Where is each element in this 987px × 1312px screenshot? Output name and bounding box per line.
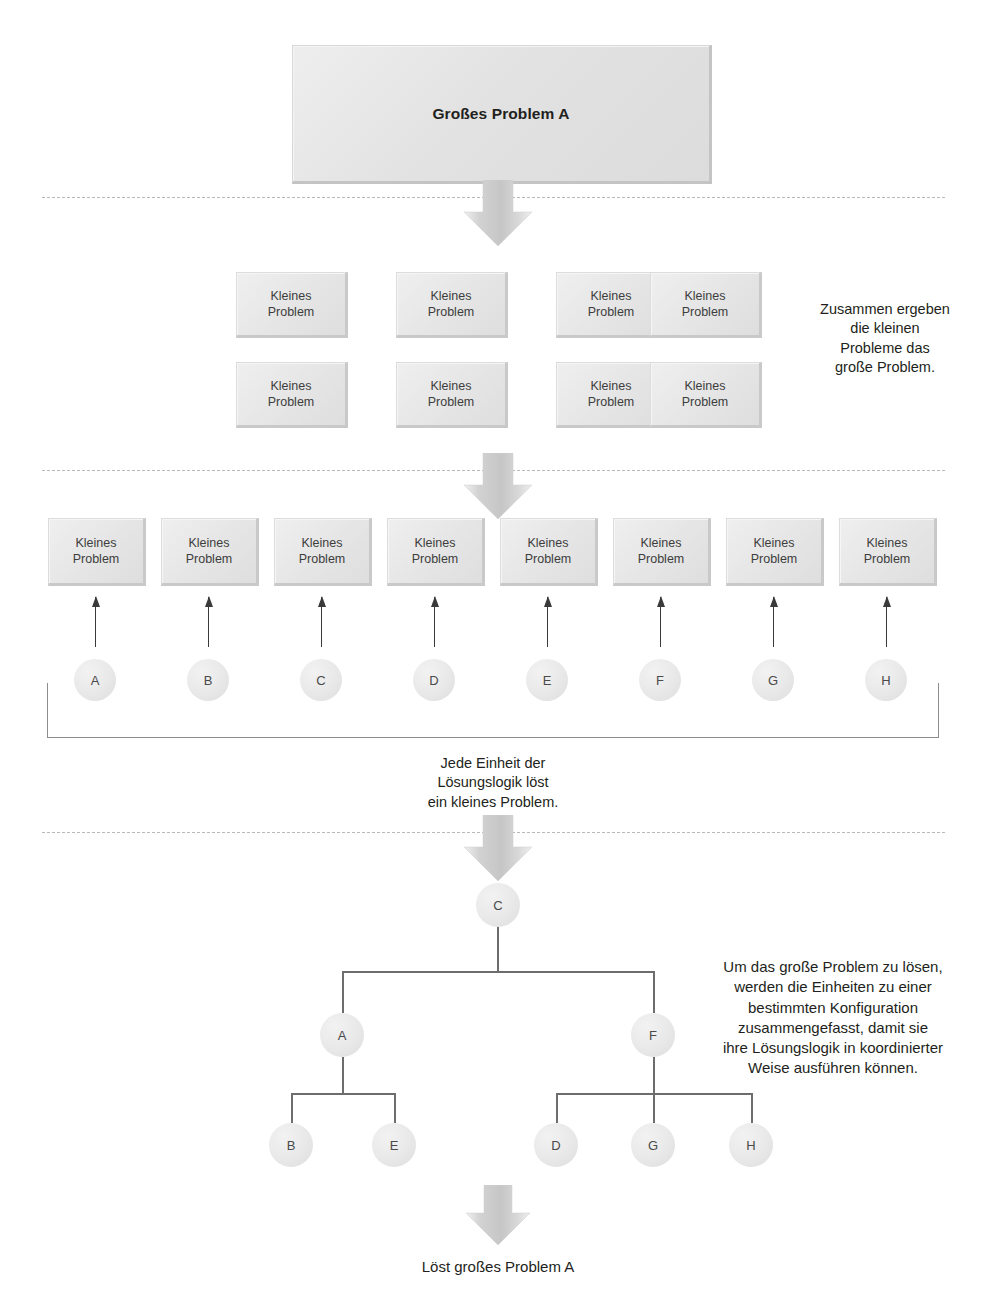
small-problem-line1: Kleines [302, 535, 343, 551]
small-problem-line1: Kleines [431, 288, 472, 304]
up-arrow-b [208, 597, 209, 647]
small-problem-line1: Kleines [271, 288, 312, 304]
tree-node-b[interactable]: B [269, 1123, 313, 1167]
tree-node-f[interactable]: F [631, 1013, 675, 1057]
tree-node-c[interactable]: C [476, 883, 520, 927]
down-block-arrow-1 [460, 180, 536, 248]
small-problem-box: Kleines Problem [48, 518, 146, 586]
small-problem-line1: Kleines [415, 535, 456, 551]
tree-line-to-f [653, 971, 655, 1013]
small-problem-box: Kleines Problem [274, 518, 372, 586]
tree-node-g[interactable]: G [631, 1123, 675, 1167]
up-arrow-g [773, 597, 774, 647]
small-problem-line1: Kleines [867, 535, 908, 551]
tree-line-to-b [291, 1093, 293, 1123]
small-problem-line1: Kleines [591, 378, 632, 394]
small-problem-line1: Kleines [271, 378, 312, 394]
small-problem-line2: Problem [428, 394, 475, 410]
small-problem-line2: Problem [864, 551, 911, 567]
small-problem-line1: Kleines [754, 535, 795, 551]
tree-node-label: H [746, 1138, 755, 1153]
caption-combined-problems: Zusammen ergeben die kleinen Probleme da… [790, 300, 980, 378]
tree-line-a-children-bar [291, 1093, 395, 1095]
small-problem-box: Kleines Problem [650, 272, 762, 338]
up-arrow-h [886, 597, 887, 647]
small-problem-line1: Kleines [431, 378, 472, 394]
up-arrow-e [547, 597, 548, 647]
small-problem-line2: Problem [638, 551, 685, 567]
small-problem-line1: Kleines [528, 535, 569, 551]
small-problem-line1: Kleines [76, 535, 117, 551]
tree-line-to-d [556, 1093, 558, 1123]
caption-unit-solves-problem: Jede Einheit der Lösungslogik löst ein k… [343, 754, 643, 812]
tree-node-d[interactable]: D [534, 1123, 578, 1167]
small-problem-box: Kleines Problem [613, 518, 711, 586]
tree-line-to-a [342, 971, 344, 1013]
small-problem-box: Kleines Problem [396, 362, 508, 428]
small-problem-box: Kleines Problem [396, 272, 508, 338]
small-problem-line1: Kleines [591, 288, 632, 304]
tree-node-label: D [551, 1138, 560, 1153]
tree-line-to-h [751, 1093, 753, 1123]
tree-node-h[interactable]: H [729, 1123, 773, 1167]
small-problem-line2: Problem [73, 551, 120, 567]
small-problem-box: Kleines Problem [650, 362, 762, 428]
small-problem-line2: Problem [428, 304, 475, 320]
small-problem-line2: Problem [412, 551, 459, 567]
small-problem-line1: Kleines [685, 288, 726, 304]
small-problem-box: Kleines Problem [500, 518, 598, 586]
units-bracket [47, 683, 939, 738]
small-problem-box: Kleines Problem [726, 518, 824, 586]
tree-node-label: E [390, 1138, 399, 1153]
small-problem-line1: Kleines [189, 535, 230, 551]
small-problem-box: Kleines Problem [839, 518, 937, 586]
small-problem-line2: Problem [751, 551, 798, 567]
tree-line-to-g [653, 1093, 655, 1123]
small-problem-line2: Problem [682, 304, 729, 320]
small-problem-line2: Problem [268, 304, 315, 320]
up-arrow-a [95, 597, 96, 647]
tree-line-a-down [342, 1057, 344, 1094]
caption-configuration: Um das große Problem zu lösen, werden di… [683, 957, 983, 1079]
small-problem-box: Kleines Problem [236, 272, 348, 338]
big-problem-label: Großes Problem A [432, 105, 569, 123]
up-arrow-f [660, 597, 661, 647]
up-arrow-c [321, 597, 322, 647]
down-block-arrow-2 [460, 453, 536, 521]
up-arrow-d [434, 597, 435, 647]
tree-node-label: B [287, 1138, 296, 1153]
big-problem-box: Großes Problem A [292, 45, 712, 184]
tree-line-level2-bar [342, 971, 654, 973]
small-problem-line2: Problem [268, 394, 315, 410]
small-problem-box: Kleines Problem [161, 518, 259, 586]
small-problem-line2: Problem [588, 394, 635, 410]
small-problem-line2: Problem [525, 551, 572, 567]
tree-node-label: F [649, 1028, 657, 1043]
small-problem-line2: Problem [588, 304, 635, 320]
tree-line-f-down [653, 1057, 655, 1094]
small-problem-box: Kleines Problem [387, 518, 485, 586]
tree-line-to-e [394, 1093, 396, 1123]
final-result-label: Löst großes Problem A [348, 1258, 648, 1275]
small-problem-line1: Kleines [685, 378, 726, 394]
small-problem-line1: Kleines [641, 535, 682, 551]
small-problem-line2: Problem [299, 551, 346, 567]
tree-line-root-down [497, 925, 499, 972]
small-problem-line2: Problem [186, 551, 233, 567]
down-block-arrow-final [460, 1185, 536, 1247]
tree-node-label: C [493, 898, 502, 913]
small-problem-box: Kleines Problem [236, 362, 348, 428]
tree-node-a[interactable]: A [320, 1013, 364, 1057]
tree-node-label: G [648, 1138, 658, 1153]
diagram-canvas: Großes Problem A Kleines Problem Kleines… [0, 0, 987, 1312]
down-block-arrow-3 [460, 815, 536, 883]
small-problem-line2: Problem [682, 394, 729, 410]
tree-node-e[interactable]: E [372, 1123, 416, 1167]
tree-node-label: A [338, 1028, 347, 1043]
